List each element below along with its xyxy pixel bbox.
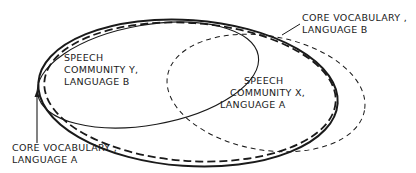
label-line: LANGUAGE B [302,24,407,36]
label-core-vocabulary-a: CORE VOCABULARY , LANGUAGE A [12,142,117,166]
label-line: SPEECH [220,75,305,87]
label-line: COMMUNITY X, [220,87,305,99]
label-line: LANGUAGE A [12,154,117,166]
label-line: CORE VOCABULARY , [302,12,407,24]
label-line: COMMUNITY Y, [64,64,138,76]
label-line: LANGUAGE B [64,76,138,88]
leader-line-core-b [282,24,300,35]
label-line: LANGUAGE A [220,99,305,111]
label-core-vocabulary-b: CORE VOCABULARY , LANGUAGE B [302,12,407,36]
label-speech-community-x: SPEECH COMMUNITY X, LANGUAGE A [220,75,305,111]
label-speech-community-y: SPEECH COMMUNITY Y, LANGUAGE B [64,52,138,88]
label-line: SPEECH [64,52,138,64]
label-line: CORE VOCABULARY , [12,142,117,154]
